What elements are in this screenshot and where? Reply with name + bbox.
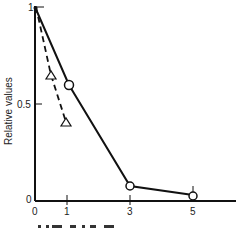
x-axis-label-cropped bbox=[38, 225, 114, 228]
y-tick-label-1: 1 bbox=[28, 2, 34, 13]
x-tick-label-3: 3 bbox=[127, 206, 133, 217]
x-tick-label-1: 1 bbox=[64, 206, 70, 217]
y-axis-label: Relative values bbox=[3, 77, 14, 145]
circle-marker bbox=[126, 182, 134, 190]
series-solid-line bbox=[35, 7, 193, 195]
x-tick-label-0: 0 bbox=[32, 206, 38, 217]
line-chart: 1 0.5 0 0 1 3 5 Relative values bbox=[0, 0, 239, 228]
start-point bbox=[34, 6, 38, 10]
series-dashed-line bbox=[36, 7, 66, 122]
triangle-marker bbox=[61, 118, 71, 126]
x-tick-label-5: 5 bbox=[190, 206, 196, 217]
y-tick-label-0: 0 bbox=[26, 194, 32, 205]
y-tick-label-05: 0.5 bbox=[17, 99, 31, 110]
circle-marker bbox=[189, 192, 197, 200]
triangle-marker bbox=[46, 71, 56, 79]
circle-marker bbox=[65, 81, 74, 90]
